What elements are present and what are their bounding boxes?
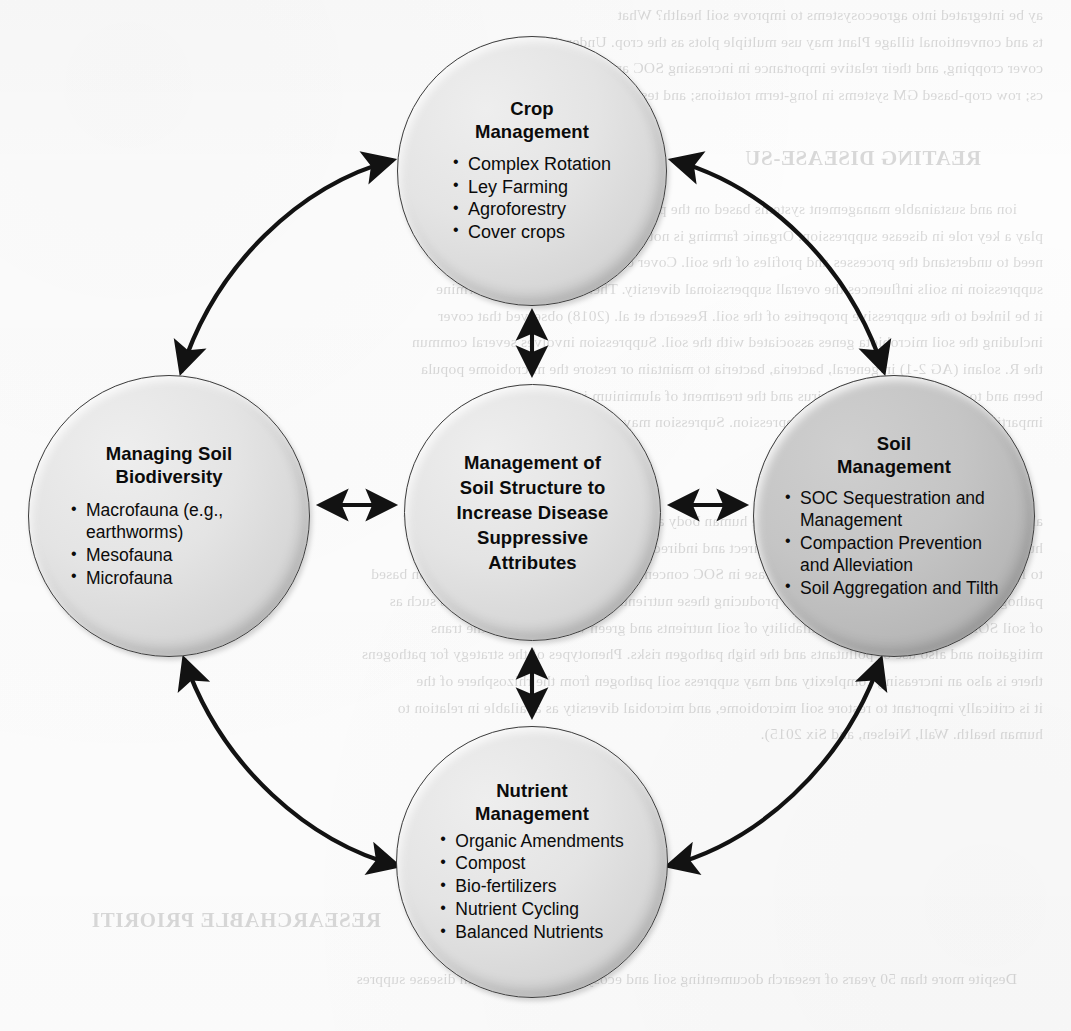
- ghost-line: it be linked to the suppressive properti…: [25, 303, 1043, 330]
- title-line: Increase Disease: [457, 500, 609, 525]
- node-soil-management-title: Soil Management: [823, 433, 965, 479]
- title-line: Nutrient: [475, 780, 589, 803]
- list-item: Balanced Nutrients: [440, 921, 623, 943]
- list-item: Macrofauna (e.g., earthworms): [71, 499, 267, 543]
- title-line: Soil: [837, 433, 951, 456]
- diagram-page: ay be integrated into agroecosystems to …: [0, 0, 1071, 1031]
- list-item: Organic Amendments: [440, 830, 623, 852]
- title-line: Suppressive: [457, 525, 609, 550]
- ghost-line: ay be integrated into agroecosystems to …: [25, 2, 1043, 29]
- title-line: Managing Soil: [106, 443, 233, 466]
- title-line: Attributes: [457, 550, 609, 575]
- node-soil-management[interactable]: Soil Management SOC Sequestration and Ma…: [753, 375, 1035, 657]
- connector-soil-to-nutrient: [668, 659, 881, 866]
- node-soil-structure-management[interactable]: Management of Soil Structure to Increase…: [404, 384, 661, 641]
- list-item: Cover crops: [453, 221, 611, 243]
- connector-crop-to-soil: [672, 160, 884, 372]
- title-line: Management: [475, 121, 589, 144]
- title-line: Management of: [457, 450, 609, 475]
- list-item: Complex Rotation: [453, 153, 611, 175]
- node-crop-management-list: Complex Rotation Ley Farming Agroforestr…: [453, 153, 611, 244]
- node-nutrient-management-list: Organic Amendments Compost Bio-fertilize…: [440, 830, 623, 944]
- list-item: Bio-fertilizers: [440, 875, 623, 897]
- title-line: Soil Structure to: [457, 475, 609, 500]
- list-item: Mesofauna: [71, 544, 267, 566]
- ghost-line: including the soil microbiota genes asso…: [25, 329, 1043, 356]
- list-item: Agroforestry: [453, 198, 611, 220]
- list-item: Microfauna: [71, 567, 267, 589]
- title-line: Crop: [475, 98, 589, 121]
- list-item: Soil Aggregation and Tilth: [785, 577, 1003, 599]
- ghost-line: there is also an increasing complexity a…: [25, 668, 1043, 695]
- list-item: Compost: [440, 852, 623, 874]
- list-item: Compaction Prevention and Alleviation: [785, 532, 1003, 576]
- node-crop-management[interactable]: Crop Management Complex Rotation Ley Far…: [397, 36, 667, 306]
- ghost-section-heading: RESEARCHABLE PRIORITI: [11, 902, 381, 938]
- connector-crop-to-biodiversity: [181, 160, 393, 372]
- list-item: SOC Sequestration and Management: [785, 487, 1003, 531]
- list-item: Ley Farming: [453, 176, 611, 198]
- node-soil-management-list: SOC Sequestration and Management Compact…: [785, 487, 1003, 599]
- node-nutrient-management-title: Nutrient Management: [461, 780, 603, 826]
- title-line: Management: [837, 456, 951, 479]
- connector-biodiversity-to-nutrient: [184, 659, 398, 866]
- node-managing-soil-biodiversity[interactable]: Managing Soil Biodiversity Macrofauna (e…: [28, 375, 310, 657]
- ghost-line: it is critically important to restore so…: [25, 695, 1043, 722]
- node-crop-management-title: Crop Management: [461, 98, 603, 144]
- title-line: Biodiversity: [106, 466, 233, 489]
- node-managing-soil-biodiversity-list: Macrofauna (e.g., earthworms) Mesofauna …: [71, 499, 267, 589]
- node-managing-soil-biodiversity-title: Managing Soil Biodiversity: [92, 443, 247, 489]
- node-nutrient-management[interactable]: Nutrient Management Organic Amendments C…: [396, 726, 668, 998]
- list-item: Nutrient Cycling: [440, 898, 623, 920]
- title-line: Management: [475, 803, 589, 826]
- node-soil-structure-management-title: Management of Soil Structure to Increase…: [427, 450, 639, 576]
